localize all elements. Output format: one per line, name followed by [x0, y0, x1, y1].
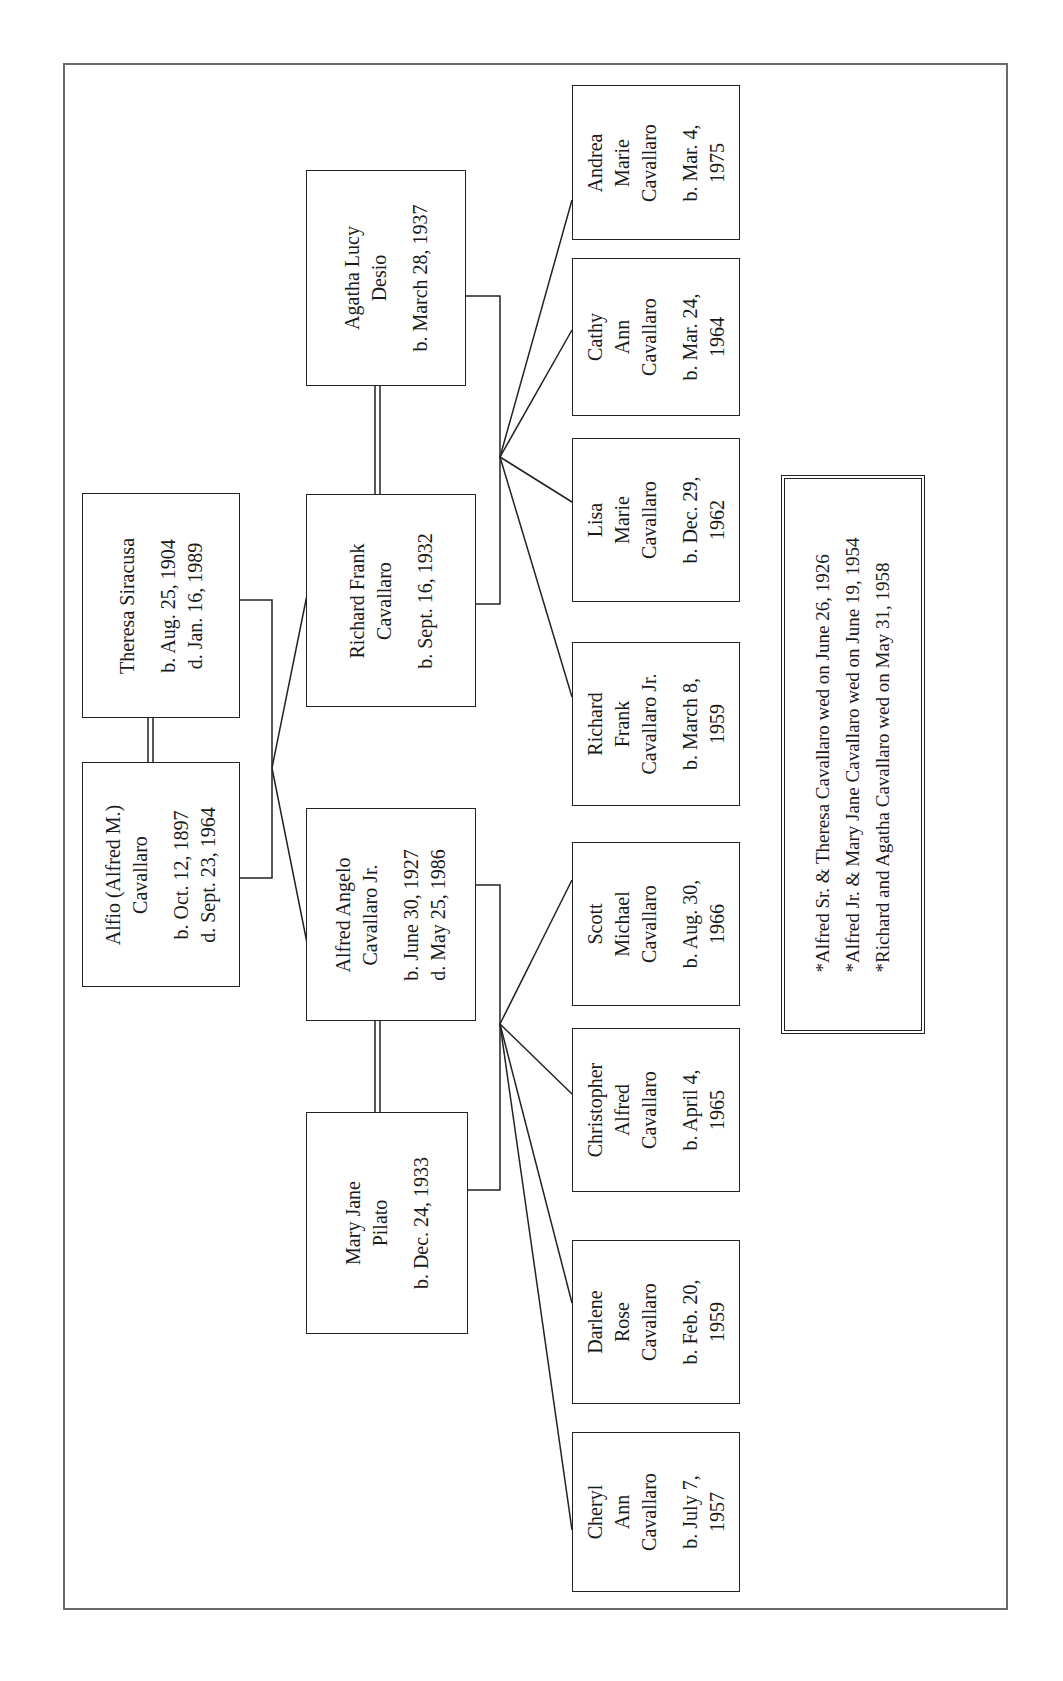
- person-name: DarleneRoseCavallaro: [582, 1283, 663, 1361]
- person-dates: b. Mar. 4,1975: [677, 124, 731, 201]
- person-box-cheryl: CherylAnnCavallaro b. July 7,1957: [572, 1432, 740, 1592]
- person-box-richard-jr: RichardFrankCavallaro Jr. b. March 8,195…: [572, 642, 740, 806]
- marriage-note: *Alfred Jr. & Mary Jane Cavallaro wed on…: [838, 537, 868, 972]
- person-box-cathy: CathyAnnCavallaro b. Mar. 24,1964: [572, 258, 740, 416]
- person-dates: b. March 8,1959: [677, 678, 731, 770]
- person-dates: b. Dec. 29,1962: [677, 476, 731, 563]
- person-box-andrea: AndreaMarieCavallaro b. Mar. 4,1975: [572, 85, 740, 240]
- person-box-christopher: ChristopherAlfredCavallaro b. April 4,19…: [572, 1028, 740, 1192]
- person-name: Richard FrankCavallaro: [344, 543, 398, 658]
- person-box-theresa: Theresa Siracusa b. Aug. 25, 1904d. Jan.…: [82, 493, 240, 718]
- person-box-darlene: DarleneRoseCavallaro b. Feb. 20,1959: [572, 1240, 740, 1404]
- person-dates: b. Aug. 30,1966: [677, 880, 731, 968]
- person-box-lisa: LisaMarieCavallaro b. Dec. 29,1962: [572, 438, 740, 602]
- person-dates: b. Feb. 20,1959: [677, 1280, 731, 1365]
- person-box-agatha: Agatha LucyDesio b. March 28, 1937: [306, 170, 466, 386]
- person-dates: b. Oct. 12, 1897d. Sept. 23, 1964: [168, 807, 222, 943]
- person-dates: b. April 4,1965: [677, 1069, 731, 1150]
- person-box-richard: Richard FrankCavallaro b. Sept. 16, 1932: [306, 494, 476, 707]
- person-name: AndreaMarieCavallaro: [582, 124, 663, 202]
- person-box-alfio: Alfio (Alfred M.)Cavallaro b. Oct. 12, 1…: [82, 762, 240, 987]
- person-name: Agatha LucyDesio: [339, 226, 393, 330]
- person-dates: b. Mar. 24,1964: [677, 293, 731, 380]
- person-dates: b. June 30, 1927d. May 25, 1986: [398, 849, 452, 981]
- person-dates: b. Sept. 16, 1932: [412, 533, 439, 669]
- person-name: RichardFrankCavallaro Jr.: [582, 673, 663, 774]
- marriage-note: *Richard and Agatha Cavallaro wed on May…: [868, 562, 898, 972]
- person-name: LisaMarieCavallaro: [582, 481, 663, 559]
- person-name: Mary JanePilato: [340, 1181, 394, 1265]
- family-tree: Alfio (Alfred M.)Cavallaro b. Oct. 12, 1…: [0, 0, 1063, 1681]
- person-name: CathyAnnCavallaro: [582, 298, 663, 376]
- person-name: ChristopherAlfredCavallaro: [582, 1063, 663, 1157]
- person-name: CherylAnnCavallaro: [582, 1473, 663, 1551]
- marriage-note: *Alfred Sr. & Theresa Cavallaro wed on J…: [808, 554, 838, 972]
- person-box-mary-jane: Mary JanePilato b. Dec. 24, 1933: [306, 1112, 468, 1334]
- person-name: Alfred AngeloCavallaro Jr.: [330, 857, 384, 972]
- person-name: Theresa Siracusa: [114, 537, 141, 673]
- person-dates: b. Dec. 24, 1933: [408, 1157, 435, 1289]
- person-dates: b. March 28, 1937: [407, 204, 434, 351]
- person-dates: b. Aug. 25, 1904d. Jan. 16, 1989: [155, 539, 209, 672]
- marriage-notes-box: *Alfred Sr. & Theresa Cavallaro wed on J…: [781, 475, 925, 1034]
- person-name: ScottMichaelCavallaro: [582, 885, 663, 963]
- person-box-alfred-jr: Alfred AngeloCavallaro Jr. b. June 30, 1…: [306, 808, 476, 1021]
- person-name: Alfio (Alfred M.)Cavallaro: [100, 804, 154, 945]
- person-dates: b. July 7,1957: [677, 1475, 731, 1548]
- person-box-scott: ScottMichaelCavallaro b. Aug. 30,1966: [572, 842, 740, 1006]
